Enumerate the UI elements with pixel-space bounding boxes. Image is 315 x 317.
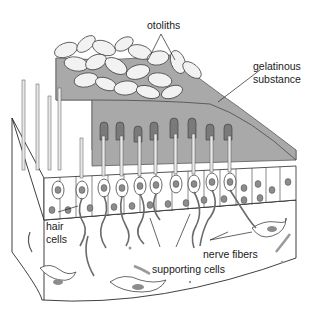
- label-nerve-fibers: nerve fibers: [203, 248, 258, 260]
- label-otoliths: otoliths: [147, 19, 180, 31]
- label-supporting-cells: supporting cells: [152, 263, 225, 275]
- otolith-macula-diagram: otoliths gelatinous substance hair cells…: [0, 0, 315, 317]
- label-cells: cells: [46, 233, 67, 245]
- label-gelatinous: gelatinous: [253, 60, 301, 72]
- label-substance: substance: [253, 73, 301, 85]
- label-hair: hair: [46, 220, 64, 232]
